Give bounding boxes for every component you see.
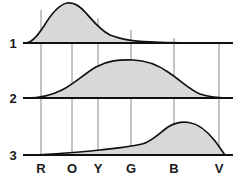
plot-canvas: 1 2 3 R O Y G B V bbox=[0, 0, 236, 178]
x-tick-label-o: O bbox=[67, 161, 77, 176]
spectral-response-diagram: 1 2 3 R O Y G B V bbox=[0, 0, 236, 178]
x-tick-label-r: R bbox=[36, 161, 46, 176]
baseline-label-3: 3 bbox=[9, 148, 16, 163]
baseline-label-1: 1 bbox=[9, 36, 16, 51]
x-tick-label-y: Y bbox=[94, 161, 103, 176]
x-tick-label-v: V bbox=[215, 161, 224, 176]
x-tick-label-g: G bbox=[126, 161, 136, 176]
baseline-label-2: 2 bbox=[9, 91, 16, 106]
x-tick-label-b: B bbox=[169, 161, 178, 176]
